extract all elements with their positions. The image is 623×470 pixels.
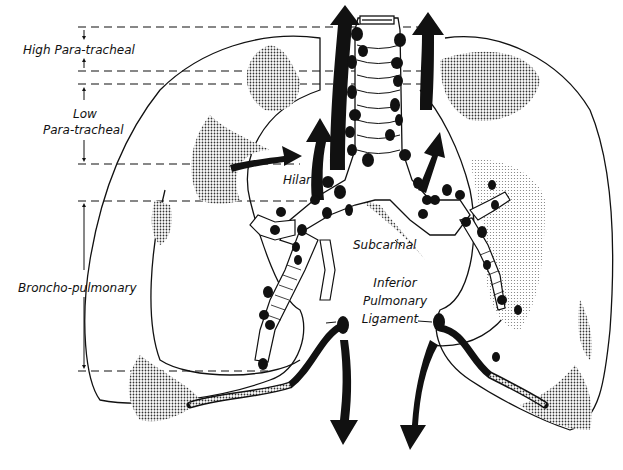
label-hilar: Hilar [283, 173, 311, 187]
lymph-node-diagram [0, 0, 623, 470]
arrow-down-icon [400, 340, 438, 450]
label-low-para-tracheal-line1: Low [70, 107, 100, 121]
label-broncho-pulmonary: Broncho-pulmonary [18, 281, 137, 295]
label-ligament: Ligament [355, 312, 425, 326]
arrow-down-icon [330, 340, 358, 445]
label-pulmonary: Pulmonary [355, 294, 435, 308]
label-inferior: Inferior [360, 276, 430, 290]
label-low-para-tracheal-line2: Para-tracheal [43, 123, 123, 137]
label-high-para-tracheal: High Para-tracheal [23, 43, 135, 57]
label-subcarinal: Subcarinal [353, 238, 416, 252]
